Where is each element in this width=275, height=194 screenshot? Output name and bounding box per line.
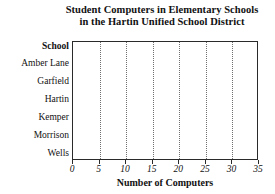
y-axis-tick-label: Amber Lane [0,58,69,68]
plot-area [72,41,258,160]
x-axis-tick-label: 20 [166,164,190,175]
x-axis-tick-label: 25 [193,164,217,175]
x-axis-tick-label: 10 [113,164,137,175]
y-axis-tick-label: Wells [0,148,69,158]
x-axis-tick-label: 15 [140,164,164,175]
y-axis-tick-label: Morrison [0,130,69,140]
chart-title-line-2: in the Hartin Unified School District [52,16,272,28]
chart-title-line-1: Student Computers in Elementary Schools [52,4,272,16]
gridline [232,42,233,159]
gridline [179,42,180,159]
gridline [206,42,207,159]
plot-inner [73,42,257,159]
y-axis-tick-label: Kemper [0,112,69,122]
x-axis-tick-label: 35 [246,164,270,175]
gridline [100,42,101,159]
gridline [153,42,154,159]
x-axis-title: Number of Computers [72,177,258,188]
x-axis-tick-label: 5 [87,164,111,175]
chart-screenshot: Student Computers in Elementary Schools … [0,0,275,194]
y-axis-tick-label: Hartin [0,94,69,104]
y-axis-tick-label: Garfield [0,76,69,86]
x-axis-tick-label: 30 [219,164,243,175]
gridline [126,42,127,159]
y-axis-title: School [0,41,69,51]
chart-title: Student Computers in Elementary Schools … [52,4,272,27]
x-axis-tick-label: 0 [60,164,84,175]
